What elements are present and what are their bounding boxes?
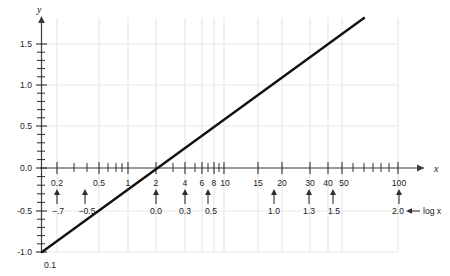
y-tick-label: 0.0 [20,163,32,173]
x-tick-label: 8 [212,178,217,188]
x-tick-label: 0.5 [93,178,105,188]
log-arrow [396,189,402,204]
log-arrow [271,189,277,204]
y-tick-label: 1.5 [20,39,32,49]
log-arrow [330,189,336,204]
y-tick-label: 0.5 [20,121,32,131]
y-tick-label: 1.0 [20,80,32,90]
x-tick-label: 1 [126,178,131,188]
y-tick-label: -1.0 [17,247,32,257]
log-arrow [82,189,88,204]
log-curve [42,18,364,252]
log-annotation-arrows [54,189,402,204]
log-arrow [306,189,312,204]
x-tick-label: 6 [200,178,205,188]
y-axis-arrowhead [38,16,45,23]
log-arrow [182,189,188,204]
log-value-label: 2.0 [392,206,404,216]
log-arrow [54,189,60,204]
x-axis-arrowhead [417,165,424,172]
x-axis-label: x [433,163,439,174]
logx-callout-arrowhead [406,208,412,214]
chart-svg: 0.2 0.5 1 2 4 6 8 10 15 20 30 40 50 100 … [0,0,450,276]
log-arrow [153,189,159,204]
log-value-label: 1.5 [328,206,340,216]
log-value-label: 1.0 [268,206,280,216]
log-value-label: 0.0 [150,206,162,216]
y-tick-label: -0.5 [17,206,32,216]
x-tick-label: 4 [183,178,188,188]
x-tick-label: 50 [339,178,349,188]
log-value-label: 0.5 [205,206,217,216]
x-tick-label: 30 [305,178,315,188]
log-value-label: −0.5 [79,206,96,216]
y-tick-labels: 1.5 1.0 0.5 0.0 -0.5 -1.0 [17,39,32,257]
x-tick-label: 2 [154,178,159,188]
log-value-label: −.7 [52,206,64,216]
log-function-chart: 0.2 0.5 1 2 4 6 8 10 15 20 30 40 50 100 … [0,0,450,276]
logx-callout: log x [406,206,442,216]
x-tick-label: 0.2 [51,178,63,188]
grid-vertical [57,18,398,252]
grid-horizontal [40,44,398,252]
log-value-label: 1.3 [303,206,315,216]
log-arrow [205,189,211,204]
x-tick-label: 10 [220,178,230,188]
x-tick-labels: 0.2 0.5 1 2 4 6 8 10 15 20 30 40 50 100 … [44,178,406,270]
logx-callout-label: log x [423,206,442,216]
y-axis-label: y [36,4,42,15]
x-tick-label: 20 [277,178,287,188]
x-tick-label: 40 [323,178,333,188]
x-axis [40,165,424,172]
x-tick-label-origin: 0.1 [44,260,56,270]
log-value-label: 0.3 [179,206,191,216]
x-tick-label: 100 [392,178,407,188]
x-tick-label: 15 [253,178,263,188]
